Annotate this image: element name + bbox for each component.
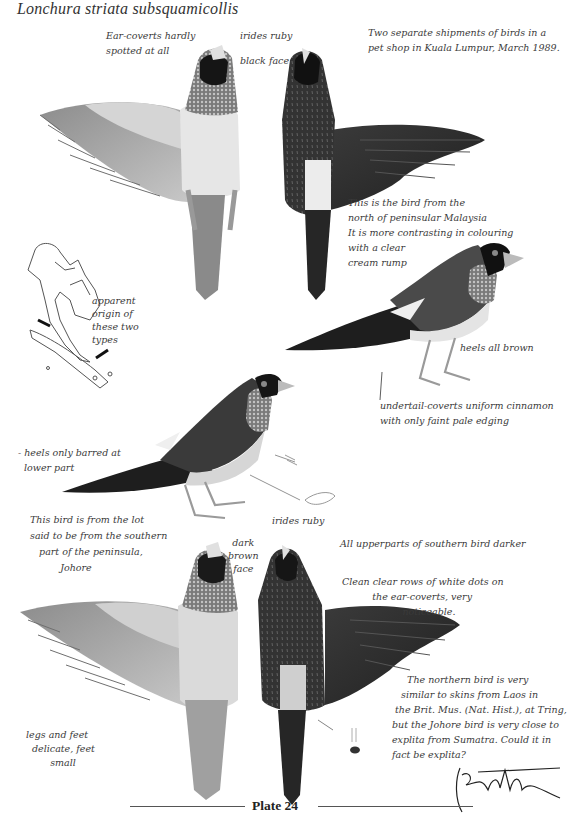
plate-number: Plate 24 bbox=[252, 798, 298, 814]
annotation-legs-feet: legs and feet delicate, feet small bbox=[26, 728, 95, 770]
footer-rule-left bbox=[130, 806, 245, 807]
annotation-irides-ruby-top: irides ruby bbox=[240, 28, 292, 43]
annotation-ear-coverts: Ear-coverts hardly spotted at all bbox=[106, 28, 195, 58]
figure-north-ventral bbox=[40, 45, 240, 300]
annotation-shipments: Two separate shipments of birds in a pet… bbox=[368, 25, 560, 55]
plate-footer: Plate 24 bbox=[0, 796, 585, 816]
annotation-undertail-coverts: undertail-coverts uniform cinnamon with … bbox=[380, 398, 554, 428]
footer-rule-right bbox=[318, 806, 473, 807]
annotation-heels-brown: heels all brown bbox=[460, 340, 534, 355]
annotation-north-bird: This is the bird from the north of penin… bbox=[348, 195, 513, 270]
annotation-heels-barred: - heels only barred at lower part bbox=[18, 445, 121, 475]
annotation-south-bird: This bird is from the lot said to be fro… bbox=[30, 512, 167, 576]
annotation-dark-brown-face: dark brown face bbox=[228, 536, 259, 575]
annotation-map-origin: apparent origin of these two types bbox=[92, 294, 139, 346]
annotation-northern-similar: The northern bird is very similar to ski… bbox=[392, 672, 567, 762]
annotation-upperparts: All upperparts of southern bird darker bbox=[340, 536, 526, 551]
annotation-black-face: black face bbox=[240, 53, 289, 68]
annotation-white-dots: Clean clear rows of white dots on the ea… bbox=[342, 574, 504, 619]
annotation-irides-ruby-mid: irides ruby bbox=[272, 513, 324, 528]
